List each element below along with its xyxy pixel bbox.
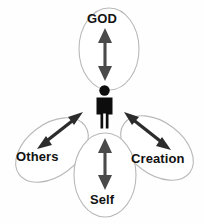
label-self: Self: [0, 193, 204, 206]
label-creation: Creation: [131, 152, 185, 165]
person-icon: [97, 85, 113, 128]
label-others: Others: [16, 150, 59, 163]
diagram-canvas: [0, 0, 204, 224]
label-god: GOD: [0, 12, 204, 25]
relationship-diagram: GOD Others Creation Self: [0, 0, 204, 224]
